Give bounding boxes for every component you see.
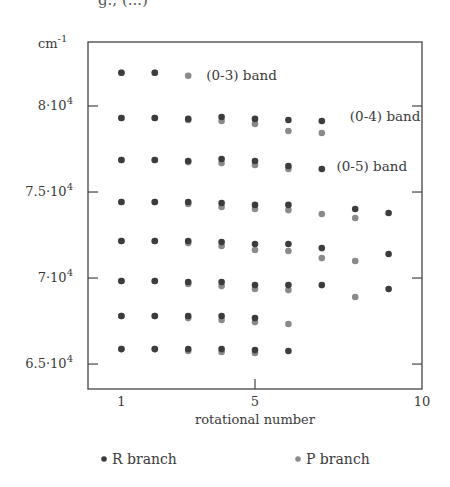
data-point	[252, 315, 259, 322]
data-point	[252, 202, 259, 209]
band-label: (0-4) band	[350, 108, 421, 124]
data-point	[319, 245, 326, 252]
data-point	[252, 247, 259, 254]
data-point	[319, 130, 326, 137]
data-point	[252, 158, 259, 165]
data-point	[385, 210, 392, 217]
data-point	[352, 215, 359, 222]
data-point	[285, 163, 292, 170]
data-point	[385, 286, 392, 293]
data-point	[118, 69, 125, 76]
y-tick-label: 8·104	[38, 95, 73, 113]
data-point	[185, 199, 192, 206]
data-point	[118, 157, 125, 164]
data-point	[352, 206, 359, 213]
data-point	[152, 115, 159, 122]
p-branch-legend-label: P branch	[306, 451, 370, 467]
x-tick-label: 10	[414, 394, 431, 409]
r-branch-legend-label: R branch	[112, 451, 177, 467]
data-point	[252, 116, 259, 123]
data-point	[118, 199, 125, 206]
band-annotations: (0-3) band(0-4) band(0-5) band	[206, 67, 421, 174]
data-point	[319, 255, 326, 262]
data-point	[118, 115, 125, 122]
data-point	[152, 157, 159, 164]
data-point	[152, 238, 159, 245]
data-point	[218, 156, 225, 163]
data-point	[185, 313, 192, 320]
data-point	[118, 313, 125, 320]
y-tick-label: 7·104	[38, 267, 73, 285]
data-point	[285, 248, 292, 255]
band-label: (0-5) band	[336, 158, 407, 174]
y-axis-ticks: 6.5·1047·1047.5·1048·104	[25, 95, 422, 371]
data-point	[319, 211, 326, 218]
data-point	[252, 241, 259, 248]
data-point	[218, 279, 225, 286]
data-point	[285, 321, 292, 328]
data-point	[252, 282, 259, 289]
x-axis-ticks: 1510	[117, 379, 430, 409]
x-axis-title: rotational number	[195, 412, 316, 427]
data-point	[218, 313, 225, 320]
data-point	[319, 118, 326, 125]
data-point	[218, 114, 225, 121]
plot-frame	[88, 42, 422, 389]
data-point	[185, 116, 192, 123]
data-point	[285, 128, 292, 135]
data-point	[185, 346, 192, 353]
data-point	[218, 239, 225, 246]
x-tick-label: 1	[117, 394, 125, 409]
data-point	[285, 348, 292, 355]
data-point	[118, 238, 125, 245]
data-point	[152, 313, 159, 320]
data-point	[218, 346, 225, 353]
data-point	[252, 347, 259, 354]
data-point	[185, 72, 192, 79]
data-point	[285, 241, 292, 248]
data-point	[385, 251, 392, 258]
y-tick-label: 6.5·104	[25, 353, 73, 371]
data-point	[118, 278, 125, 285]
data-point	[285, 202, 292, 209]
data-point	[285, 282, 292, 289]
data-point	[152, 69, 159, 76]
p-branch-legend-marker	[295, 456, 301, 462]
data-point	[319, 166, 326, 173]
data-point	[152, 199, 159, 206]
data-point	[185, 279, 192, 286]
data-point	[185, 158, 192, 165]
y-tick-label: 7.5·104	[25, 181, 73, 199]
x-tick-label: 5	[251, 394, 259, 409]
data-point	[152, 346, 159, 353]
data-point	[352, 258, 359, 265]
band-label: (0-3) band	[206, 67, 277, 83]
data-point	[218, 200, 225, 207]
data-point	[319, 282, 326, 289]
data-point	[285, 117, 292, 124]
data-point	[118, 346, 125, 353]
r-branch-legend-marker	[101, 456, 107, 462]
scatter-chart: 6.5·1047·1047.5·1048·104 1510 cm-1 rotat…	[0, 0, 450, 487]
data-point	[352, 294, 359, 301]
legend: R branch P branch	[101, 451, 370, 467]
data-point	[185, 238, 192, 245]
data-point	[152, 278, 159, 285]
y-axis-unit-label: cm-1	[38, 33, 67, 51]
